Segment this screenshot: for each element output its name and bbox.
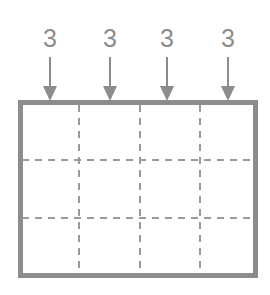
dimension-label-2: 3 [103,24,117,52]
dimension-label-4: 3 [221,24,235,52]
arrow-head-icon [43,86,57,101]
arrow-head-icon [221,86,235,101]
dimension-label-3: 3 [160,24,174,52]
dimension-label-1: 3 [43,24,57,52]
arrow-head-icon [103,86,117,101]
dimension-arrow-1 [43,57,57,101]
dimension-arrow-4 [221,57,235,101]
arrow-head-icon [160,86,174,101]
outer-rectangle [21,103,256,276]
dimension-arrow-3 [160,57,174,101]
dimension-arrow-2 [103,57,117,101]
diagram-canvas: 3 3 3 3 [0,0,270,295]
diagram-svg: 3 3 3 3 [0,0,270,295]
